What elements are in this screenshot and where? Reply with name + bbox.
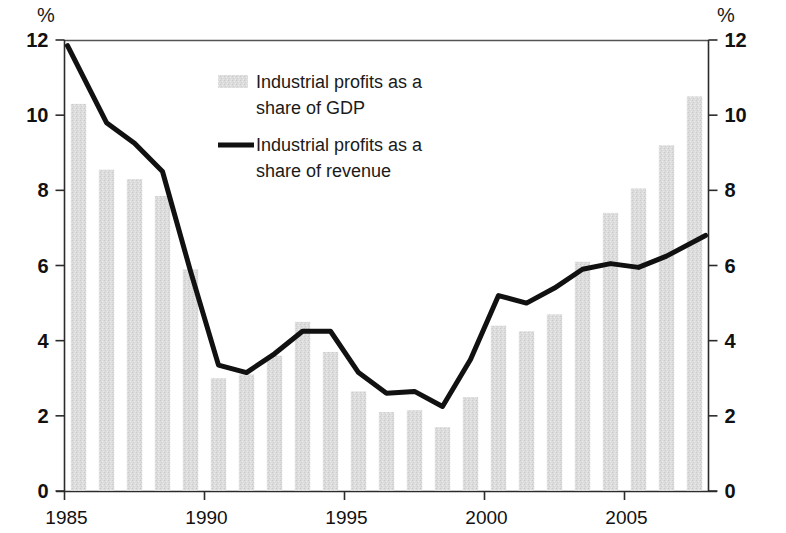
legend-item-1-line-2: share of revenue — [256, 161, 391, 181]
left-ytick-label-10: 10 — [26, 104, 48, 126]
bar-1999 — [463, 397, 478, 491]
right-ytick-label-0: 0 — [725, 480, 736, 502]
x-tick-label-1985: 1985 — [45, 507, 87, 528]
bar-1997 — [407, 410, 422, 491]
x-tick-label-1990: 1990 — [185, 507, 227, 528]
chart-page: % % 024681012 024681012 1985199019952000… — [0, 0, 786, 533]
bar-2001 — [519, 331, 534, 491]
right-ytick-label-12: 12 — [725, 29, 747, 51]
bar-1986 — [99, 170, 114, 491]
left-ytick-label-12: 12 — [26, 29, 48, 51]
bar-1998 — [435, 427, 450, 491]
legend-item-0-line-1: Industrial profits as a — [256, 72, 423, 92]
bar-1989 — [183, 269, 198, 491]
bar-1992 — [267, 356, 282, 491]
bar-2007 — [687, 96, 702, 491]
right-axis-unit-label: % — [717, 4, 735, 26]
bar-2003 — [575, 262, 590, 491]
left-ytick-label-8: 8 — [37, 179, 48, 201]
legend-item-1-line-1: Industrial profits as a — [256, 135, 423, 155]
legend-bar-swatch-icon — [218, 75, 248, 88]
bar-2002 — [547, 314, 562, 491]
bar-2006 — [659, 145, 674, 491]
bar-2004 — [603, 213, 618, 491]
x-tick-label-1995: 1995 — [325, 507, 367, 528]
bar-1994 — [323, 352, 338, 491]
left-ytick-label-4: 4 — [37, 330, 49, 352]
bar-1987 — [127, 179, 142, 491]
bar-2005 — [631, 188, 646, 491]
bar-1995 — [351, 391, 366, 491]
left-ytick-label-0: 0 — [37, 480, 48, 502]
x-tick-label-2000: 2000 — [465, 507, 507, 528]
right-ytick-label-8: 8 — [725, 179, 736, 201]
bar-1990 — [211, 378, 226, 491]
right-ytick-label-6: 6 — [725, 255, 736, 277]
bar-2000 — [491, 326, 506, 491]
industrial-profits-chart: % % 024681012 024681012 1985199019952000… — [0, 0, 786, 533]
bar-1988 — [155, 196, 170, 491]
x-tick-label-2005: 2005 — [605, 507, 647, 528]
left-ytick-label-2: 2 — [37, 405, 48, 427]
bar-1991 — [239, 374, 254, 491]
left-axis-unit-label: % — [37, 4, 55, 26]
left-ytick-label-6: 6 — [37, 255, 48, 277]
legend-item-0-line-2: share of GDP — [256, 98, 365, 118]
bar-1996 — [379, 412, 394, 491]
bar-1985 — [71, 104, 86, 491]
right-ytick-label-10: 10 — [725, 104, 747, 126]
bar-1993 — [295, 322, 310, 491]
right-ytick-label-2: 2 — [725, 405, 736, 427]
right-ytick-label-4: 4 — [725, 330, 737, 352]
